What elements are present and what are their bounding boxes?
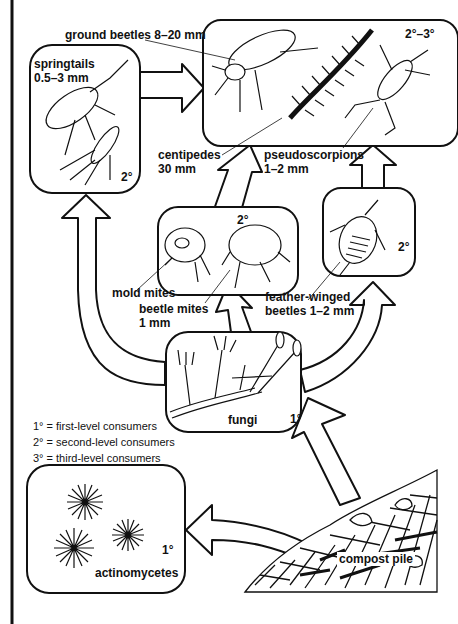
level-springtails: 2° [121, 170, 132, 184]
level-mites: 2° [237, 213, 248, 227]
label-compost-pile: compost pile [337, 552, 415, 566]
level-featherwinged: 2° [398, 240, 409, 254]
label-actinomycetes: actinomycetes [95, 566, 178, 580]
arrow-springtails-to-predators [140, 64, 204, 112]
label-featherwinged-line1: feather-winged [265, 290, 350, 304]
legend-item-3: 3° = third-level consumers [33, 452, 161, 465]
label-mold-mites: mold mites [112, 286, 175, 300]
level-fungi: 1° [290, 412, 301, 426]
legend-item-2: 2° = second-level consumers [33, 436, 175, 449]
arrow-compost-to-fungi [292, 398, 360, 505]
label-centipedes-name: centipedes [158, 148, 221, 162]
label-pseudoscorpions-size: 1–2 mm [264, 162, 309, 176]
food-web-diagram [0, 0, 458, 624]
label-fungi: fungi [228, 413, 257, 427]
label-ground-beetles: ground beetles 8–20 mm [65, 28, 206, 42]
label-springtails-name: springtails [34, 57, 95, 71]
legend-item-1: 1° = first-level consumers [33, 420, 157, 433]
label-centipedes-size: 30 mm [158, 162, 196, 176]
label-beetle-mites-name: beetle mites [139, 302, 208, 316]
label-featherwinged-line2: beetles 1–2 mm [265, 304, 354, 318]
label-beetle-mites-size: 1 mm [139, 316, 170, 330]
label-springtails-size: 0.5–3 mm [34, 71, 89, 85]
level-actinomycetes: 1° [162, 543, 173, 557]
level-predators: 2°–3° [405, 27, 435, 41]
label-pseudoscorpions-name: pseudoscorpions [264, 148, 364, 162]
